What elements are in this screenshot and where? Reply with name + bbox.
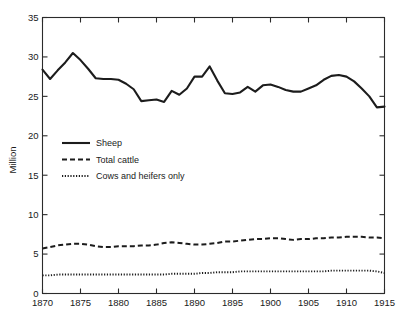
x-tick-label: 1890 (184, 297, 205, 308)
x-tick-label: 1875 (70, 297, 91, 308)
y-tick-label: 5 (33, 248, 38, 259)
legend-label: Sheep (96, 138, 122, 148)
x-tick-label: 1880 (108, 297, 129, 308)
x-tick-label: 1895 (222, 297, 243, 308)
y-axis-ticks (43, 18, 385, 294)
line-chart: 05101520253035 1870187518801885189018951… (0, 0, 402, 322)
x-tick-label: 1915 (374, 297, 395, 308)
y-tick-label: 25 (28, 91, 39, 102)
x-axis-ticks (43, 18, 385, 294)
x-axis-tick-labels: 1870187518801885189018951900190519101915 (32, 297, 395, 308)
y-tick-label: 35 (28, 12, 39, 23)
series-line-total-cattle (43, 237, 385, 249)
y-tick-label: 20 (28, 130, 39, 141)
y-tick-label: 30 (28, 51, 39, 62)
x-tick-label: 1905 (298, 297, 319, 308)
series-line-cows-and-heifers (43, 271, 385, 276)
y-tick-label: 10 (28, 209, 39, 220)
legend-label: Cows and heifers only (96, 171, 185, 181)
legend: SheepTotal cattleCows and heifers only (62, 138, 185, 181)
plot-frame (43, 18, 385, 294)
x-tick-label: 1910 (336, 297, 357, 308)
figure-container: 05101520253035 1870187518801885189018951… (0, 0, 402, 322)
x-tick-label: 1900 (260, 297, 281, 308)
y-tick-label: 15 (28, 170, 39, 181)
x-tick-label: 1870 (32, 297, 53, 308)
x-tick-label: 1885 (146, 297, 167, 308)
y-axis-tick-labels: 05101520253035 (28, 12, 39, 299)
series-line-sheep (43, 53, 385, 107)
legend-label: Total cattle (96, 155, 139, 165)
y-axis-title: Million (7, 147, 18, 174)
